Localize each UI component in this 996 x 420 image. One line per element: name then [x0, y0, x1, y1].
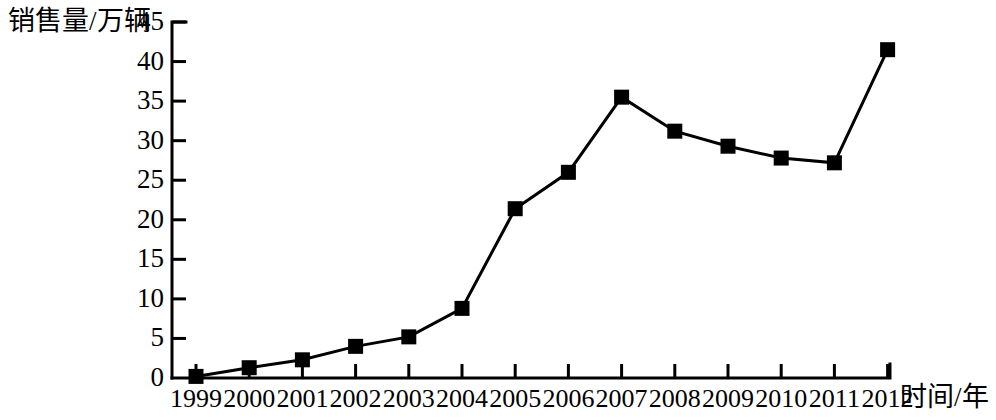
data-point-marker [295, 352, 310, 367]
data-point-marker [827, 155, 842, 170]
data-series [196, 50, 888, 377]
axes [172, 22, 890, 378]
data-point-marker [242, 360, 257, 375]
data-point-marker [774, 151, 789, 166]
data-point-marker [189, 369, 204, 384]
plot-area [0, 0, 996, 420]
data-point-marker [880, 42, 895, 57]
data-point-marker [667, 124, 682, 139]
data-point-marker [721, 139, 736, 154]
y-axis-line [172, 22, 186, 378]
series-line-sales [196, 50, 888, 377]
data-point-marker [614, 90, 629, 105]
data-markers [189, 42, 896, 384]
data-point-marker [508, 201, 523, 216]
data-point-marker [401, 329, 416, 344]
line-chart: 销售量/万辆 时间/年 051015202530354045 199920002… [0, 0, 996, 420]
data-point-marker [455, 301, 470, 316]
data-point-marker [348, 339, 363, 354]
data-point-marker [561, 165, 576, 180]
